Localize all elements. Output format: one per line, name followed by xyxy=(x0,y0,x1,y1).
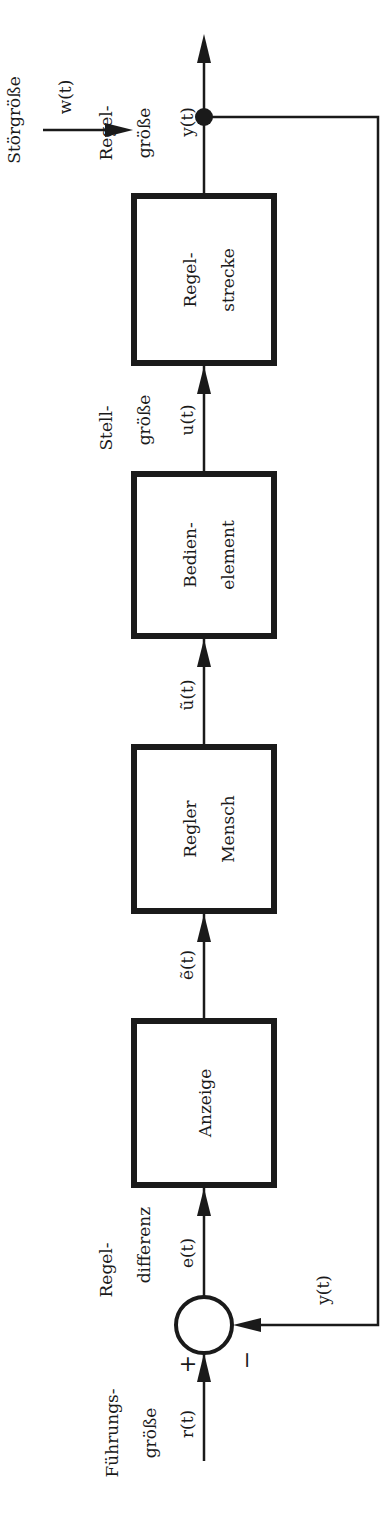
displayed-error-symbol: ẽ(t) xyxy=(177,950,197,980)
reference-symbol: r(t) xyxy=(177,1410,197,1438)
output-name-line2: größe xyxy=(134,108,154,159)
error-name-line1: Regel- xyxy=(96,1243,116,1298)
disturbance-symbol: w(t) xyxy=(55,80,75,115)
summing-junction xyxy=(176,1297,232,1353)
block-regler-label-line2: Mensch xyxy=(218,795,238,863)
block-bedienelement xyxy=(134,474,274,636)
error-name-line2: differenz xyxy=(134,1207,154,1284)
plus-sign: + xyxy=(175,1355,200,1373)
actuating-name-line1: Stell- xyxy=(96,405,116,450)
arrow-into-anzeige xyxy=(197,1188,211,1216)
arrow-into-regelstrecke xyxy=(197,366,211,394)
reference-name-line2: größe xyxy=(140,1408,160,1459)
control-loop-diagram: Anzeige Regler Mensch Bedien- element Re… xyxy=(0,0,381,1529)
minus-sign: − xyxy=(234,1351,259,1369)
block-regelstrecke xyxy=(134,196,274,363)
controller-output-symbol: ũ(t) xyxy=(177,679,197,710)
arrow-into-regler xyxy=(197,914,211,942)
actuating-symbol: u(t) xyxy=(177,404,197,435)
output-symbol: y(t) xyxy=(177,107,197,138)
arrow-feedback-into-junction xyxy=(233,1318,261,1332)
output-name-line1: Regel- xyxy=(96,106,116,161)
reference-name-line1: Führungs- xyxy=(102,1388,122,1477)
block-anzeige-label: Anzeige xyxy=(195,1069,215,1139)
feedback-symbol: y(t) xyxy=(313,1275,333,1306)
arrow-into-bedienelement xyxy=(197,639,211,667)
block-bedienelement-label-line1: Bedien- xyxy=(180,522,200,588)
block-regelstrecke-label-line1: Regel- xyxy=(180,253,200,308)
disturbance-name: Störgröße xyxy=(4,76,24,164)
arrow-output xyxy=(197,34,211,63)
actuating-name-line2: größe xyxy=(134,395,154,446)
block-regelstrecke-label-line2: strecke xyxy=(218,248,238,312)
branch-point xyxy=(195,108,213,126)
block-regler-label-line1: Regler xyxy=(180,799,200,857)
error-symbol: e(t) xyxy=(177,1238,197,1268)
block-bedienelement-label-line2: element xyxy=(218,520,238,590)
block-regler-mensch xyxy=(134,747,274,911)
